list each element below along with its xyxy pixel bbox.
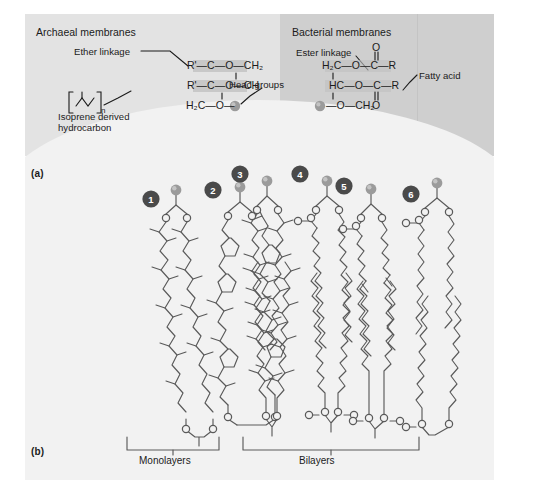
- monolayers-label: Monolayers: [139, 455, 191, 466]
- structure-number-1: 1: [143, 191, 160, 208]
- bacterial-formula-row2: HC—O—C—R: [329, 80, 399, 91]
- ester-linkage-label: Ester linkage: [296, 47, 351, 58]
- isoprene-subscript: n: [101, 105, 105, 116]
- panel-b-background: [25, 100, 494, 480]
- bacterial-carbonyl-o-bottom: O: [372, 100, 380, 111]
- structure-number-3: 3: [232, 166, 249, 183]
- archaeal-formula-row1: R'—C—O—CH₂: [187, 60, 263, 71]
- bacterial-heading: Bacterial membranes: [292, 26, 391, 38]
- bacterial-formula-row3: —O—CH₂: [326, 100, 374, 111]
- bilayers-label: Bilayers: [299, 455, 335, 466]
- structure-number-5: 5: [336, 178, 353, 195]
- isoprene-label-line1: Isoprene derived: [58, 111, 129, 122]
- panel-b-label: (b): [31, 446, 44, 457]
- bacterial-formula-row1: H₂C—O—C—R: [322, 60, 396, 71]
- archaeal-heading: Archaeal membranes: [36, 26, 136, 38]
- panel-a-label: (a): [31, 168, 44, 179]
- panel-b-body: [25, 210, 494, 480]
- ether-linkage-label: Ether linkage: [74, 46, 130, 57]
- isoprene-label: Isoprene derived hydrocarbon: [58, 111, 129, 133]
- bacterial-carbonyl-o-top: O: [372, 42, 380, 53]
- structure-number-4: 4: [292, 166, 309, 183]
- archaeal-formula-row2: R'—C—O—CH: [187, 80, 259, 91]
- fatty-acid-label: Fatty acid: [419, 70, 461, 81]
- figure-root: Archaeal membranes Bacterial membranes E…: [0, 0, 551, 497]
- isoprene-label-line2: hydrocarbon: [58, 122, 111, 133]
- structure-number-2: 2: [205, 182, 222, 199]
- structure-number-6: 6: [403, 186, 420, 203]
- archaeal-formula-row3: H₂C—O—: [186, 100, 234, 111]
